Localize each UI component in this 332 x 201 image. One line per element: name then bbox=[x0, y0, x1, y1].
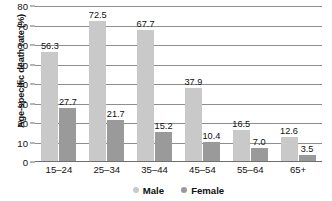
bar-value-label: 67.7 bbox=[137, 19, 155, 29]
x-axis-label: 45–54 bbox=[178, 164, 226, 178]
bar-male[interactable]: 16.5 bbox=[233, 130, 250, 162]
bar-rect bbox=[185, 88, 202, 162]
bar-groups: 56.327.772.521.767.715.237.910.416.57.01… bbox=[35, 6, 322, 162]
x-axis-label: 35–44 bbox=[131, 164, 179, 178]
bar-value-label: 56.3 bbox=[41, 41, 59, 51]
bar-male[interactable]: 56.3 bbox=[41, 52, 58, 162]
y-tick-label: 10 bbox=[17, 137, 28, 148]
bar-group: 37.910.4 bbox=[178, 6, 226, 162]
bar-value-label: 37.9 bbox=[184, 77, 202, 87]
bar-rect bbox=[59, 108, 76, 162]
bar-rect bbox=[41, 52, 58, 162]
bar-rect bbox=[89, 21, 106, 162]
x-axis-label: 15–24 bbox=[35, 164, 83, 178]
bar-male[interactable]: 72.5 bbox=[89, 21, 106, 162]
y-tick-label: 30 bbox=[17, 98, 28, 109]
bar-value-label: 72.5 bbox=[89, 10, 107, 20]
bar-value-label: 7.0 bbox=[253, 137, 266, 147]
x-axis-label: 65+ bbox=[274, 164, 322, 178]
bar-value-label: 16.5 bbox=[232, 119, 250, 129]
chart-legend: MaleFemale bbox=[35, 183, 322, 197]
bar-male[interactable]: 67.7 bbox=[137, 30, 154, 162]
y-tick-label: 70 bbox=[17, 20, 28, 31]
bar-value-label: 3.5 bbox=[301, 144, 314, 154]
bar-group: 67.715.2 bbox=[131, 6, 179, 162]
bar-male[interactable]: 37.9 bbox=[185, 88, 202, 162]
y-tick-label: 50 bbox=[17, 59, 28, 70]
bar-rect bbox=[107, 120, 124, 162]
legend-marker-icon bbox=[133, 187, 139, 193]
legend-label: Male bbox=[143, 185, 164, 196]
bar-group: 72.521.7 bbox=[83, 6, 131, 162]
y-axis-ticks: 80706050403020100 bbox=[0, 6, 35, 162]
y-tick-label: 80 bbox=[17, 1, 28, 12]
legend-label: Female bbox=[191, 185, 224, 196]
legend-marker-icon bbox=[181, 187, 187, 193]
bar-value-label: 27.7 bbox=[59, 97, 77, 107]
bar-group: 56.327.7 bbox=[35, 6, 83, 162]
bar-rect bbox=[137, 30, 154, 162]
bar-female[interactable]: 15.2 bbox=[155, 132, 172, 162]
x-axis-line bbox=[35, 161, 322, 162]
bar-group: 16.57.0 bbox=[226, 6, 274, 162]
bar-rect bbox=[155, 132, 172, 162]
bar-female[interactable]: 10.4 bbox=[203, 142, 220, 162]
bar-rect bbox=[233, 130, 250, 162]
bar-chart: Age-specific death rate (%) 807060504030… bbox=[0, 0, 332, 201]
bar-female[interactable]: 27.7 bbox=[59, 108, 76, 162]
bar-rect bbox=[281, 137, 298, 162]
legend-item-female[interactable]: Female bbox=[181, 185, 224, 196]
bar-male[interactable]: 12.6 bbox=[281, 137, 298, 162]
bar-value-label: 15.2 bbox=[155, 121, 173, 131]
bar-value-label: 10.4 bbox=[202, 131, 220, 141]
bar-group: 12.63.5 bbox=[274, 6, 322, 162]
bar-rect bbox=[203, 142, 220, 162]
legend-item-male[interactable]: Male bbox=[133, 185, 164, 196]
y-tick-label: 20 bbox=[17, 118, 28, 129]
y-tick-label: 40 bbox=[17, 79, 28, 90]
x-axis-label: 25–34 bbox=[83, 164, 131, 178]
y-tick-label: 0 bbox=[23, 157, 28, 168]
bar-value-label: 21.7 bbox=[107, 109, 125, 119]
plot-area: 56.327.772.521.767.715.237.910.416.57.01… bbox=[35, 6, 322, 162]
bar-female[interactable]: 21.7 bbox=[107, 120, 124, 162]
x-axis-label: 55–64 bbox=[226, 164, 274, 178]
bar-value-label: 12.6 bbox=[280, 126, 298, 136]
x-axis-labels: 15–2425–3435–4445–5455–6465+ bbox=[35, 164, 322, 178]
y-tick-label: 60 bbox=[17, 40, 28, 51]
